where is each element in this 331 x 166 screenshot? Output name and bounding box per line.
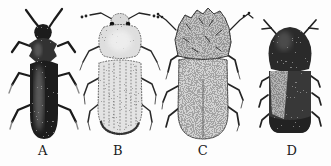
specimen-c-label: C	[198, 143, 208, 158]
specimen-b-label: B	[113, 143, 123, 158]
beetle-b-drawing	[80, 13, 160, 134]
beetle-c-drawing	[157, 8, 253, 139]
beetle-a-drawing	[9, 9, 79, 139]
beetle-plate-figure: A B C D	[0, 0, 331, 166]
beetle-d-drawing	[259, 20, 321, 133]
beetle-engraving-canvas	[0, 0, 331, 166]
specimen-a-label: A	[38, 143, 48, 158]
specimen-d-label: D	[287, 143, 298, 158]
